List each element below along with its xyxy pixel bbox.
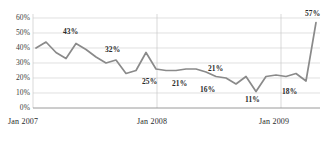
x-tick-label-jan-2008: Jan 2008 (137, 117, 167, 126)
data-label-32: 32% (105, 46, 120, 54)
y-tick-label: 30% (0, 59, 30, 67)
line-chart: 60% 50% 40% 30% 20% 10% 0% Jan 2007 Jan … (0, 0, 326, 150)
data-label-43: 43% (63, 28, 78, 36)
data-label-11: 11% (245, 96, 260, 104)
y-tick-label: 60% (0, 14, 30, 22)
data-label-25: 25% (142, 78, 157, 86)
chart-plot-area (0, 0, 326, 150)
x-tick-label-jan-2009: Jan 2009 (259, 117, 289, 126)
y-tick-label: 20% (0, 74, 30, 82)
data-label-21-a: 21% (172, 80, 187, 88)
y-tick-label: 40% (0, 44, 30, 52)
data-label-57: 57% (305, 10, 320, 18)
y-tick-label: 50% (0, 29, 30, 37)
data-label-16: 16% (200, 86, 215, 94)
y-tick-label: 10% (0, 89, 30, 97)
y-tick-label: 0% (0, 104, 30, 112)
data-label-18: 18% (282, 88, 297, 96)
data-label-21-b: 21% (208, 65, 223, 73)
x-tick-label-jan-2007: Jan 2007 (8, 117, 38, 126)
